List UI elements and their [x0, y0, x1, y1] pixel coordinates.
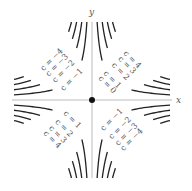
origin-point — [89, 97, 95, 103]
hyperbola-segment — [69, 22, 72, 32]
hyperbola-segment — [160, 77, 170, 80]
hyperbola-segment — [72, 22, 76, 39]
hyperbola-segment — [144, 85, 170, 90]
hyperbola-segment — [107, 22, 111, 39]
hyperbola-segment — [132, 90, 171, 95]
hyperbola-segment — [102, 22, 107, 48]
y-axis-label: y — [88, 7, 95, 17]
hyperbola-segment — [97, 140, 102, 179]
hyperbola-segment — [14, 115, 31, 119]
hyperbola-segment — [14, 85, 40, 90]
hyperbola-segment — [82, 22, 87, 61]
hyperbola-segment — [113, 168, 116, 178]
hyperbola-segment — [14, 105, 53, 110]
hyperbola-segment — [153, 115, 170, 119]
hyperbola-segment — [82, 140, 87, 179]
hyperbola-segment — [113, 22, 116, 32]
hyperbola-segment — [107, 161, 111, 178]
hyperbola-segment — [144, 110, 170, 115]
contour-plot: x y c = 0c = 1c = 1c = 2c = 2c = 3c = 3c… — [0, 0, 192, 191]
hyperbola-segment — [102, 152, 107, 178]
hyperbola-segment — [97, 22, 102, 61]
hyperbola-segment — [153, 80, 170, 84]
hyperbola-segment — [77, 152, 82, 178]
hyperbola-segment — [132, 105, 171, 110]
x-axis-label: x — [176, 95, 181, 105]
hyperbola-segment — [14, 80, 31, 84]
hyperbola-segment — [14, 77, 24, 80]
hyperbola-segment — [72, 161, 76, 178]
hyperbola-segment — [14, 90, 53, 95]
hyperbola-segment — [160, 121, 170, 124]
hyperbola-segment — [14, 121, 24, 124]
hyperbola-segment — [77, 22, 82, 48]
hyperbola-segment — [14, 110, 40, 115]
hyperbola-segment — [69, 168, 72, 178]
